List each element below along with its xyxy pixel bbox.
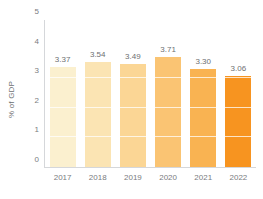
gridline bbox=[85, 136, 111, 137]
x-tick-label: 2020 bbox=[159, 173, 177, 182]
gridline bbox=[190, 77, 216, 78]
y-tick-label: 0 bbox=[35, 155, 39, 164]
x-axis-line bbox=[44, 167, 256, 168]
bar-value-label: 3.37 bbox=[55, 55, 71, 64]
gridline bbox=[155, 77, 181, 78]
bar[interactable] bbox=[155, 57, 181, 167]
bar[interactable] bbox=[225, 76, 251, 167]
bar-value-label: 3.49 bbox=[125, 52, 141, 61]
bar-gridlines bbox=[120, 64, 146, 167]
gridline bbox=[225, 77, 251, 78]
gridline bbox=[190, 136, 216, 137]
gridline bbox=[155, 107, 181, 108]
gridline bbox=[120, 77, 146, 78]
bar-value-label: 3.06 bbox=[231, 64, 247, 73]
y-axis-title-label: % of GDP bbox=[8, 81, 17, 118]
gridline bbox=[225, 107, 251, 108]
gridline bbox=[155, 136, 181, 137]
x-tick-label: 2018 bbox=[89, 173, 107, 182]
bar[interactable] bbox=[85, 62, 111, 167]
x-tick-label: 2019 bbox=[124, 173, 142, 182]
bar-value-label: 3.30 bbox=[195, 57, 211, 66]
bar-value-label: 3.54 bbox=[90, 50, 106, 59]
bar[interactable] bbox=[50, 67, 76, 167]
bar-group: 3.302021 bbox=[186, 20, 221, 167]
x-tick-label: 2022 bbox=[230, 173, 248, 182]
bar[interactable] bbox=[190, 69, 216, 167]
bar-gridlines bbox=[50, 67, 76, 167]
bar-gridlines bbox=[225, 76, 251, 167]
y-tick-label: 1 bbox=[35, 125, 39, 134]
gridline bbox=[85, 77, 111, 78]
bar-value-label: 3.71 bbox=[160, 45, 176, 54]
gridline bbox=[120, 107, 146, 108]
bar-group: 3.492019 bbox=[115, 20, 150, 167]
y-tick-label: 5 bbox=[35, 7, 39, 16]
bar-group: 3.712020 bbox=[151, 20, 186, 167]
x-tick-label: 2017 bbox=[54, 173, 72, 182]
bar-group: 3.062022 bbox=[221, 20, 256, 167]
gridline bbox=[50, 136, 76, 137]
bar[interactable] bbox=[120, 64, 146, 167]
bar-group: 3.542018 bbox=[80, 20, 115, 167]
y-tick-label: 4 bbox=[35, 36, 39, 45]
bar-group: 3.372017 bbox=[45, 20, 80, 167]
y-tick-label: 2 bbox=[35, 95, 39, 104]
y-tick-label: 3 bbox=[35, 66, 39, 75]
x-tick-label: 2021 bbox=[194, 173, 212, 182]
gridline bbox=[50, 107, 76, 108]
bar-gridlines bbox=[85, 62, 111, 167]
gridline bbox=[225, 136, 251, 137]
bar-gridlines bbox=[155, 57, 181, 167]
gridline bbox=[50, 77, 76, 78]
plot-area: 012345 3.3720173.5420183.4920193.7120203… bbox=[44, 20, 256, 168]
gridline bbox=[120, 136, 146, 137]
gridline bbox=[85, 107, 111, 108]
bars-layer: 3.3720173.5420183.4920193.7120203.302021… bbox=[45, 20, 256, 167]
y-axis-title: % of GDP bbox=[2, 0, 22, 199]
gridline bbox=[190, 107, 216, 108]
bar-gridlines bbox=[190, 69, 216, 167]
bar-chart: % of GDP 012345 3.3720173.5420183.492019… bbox=[0, 0, 263, 199]
